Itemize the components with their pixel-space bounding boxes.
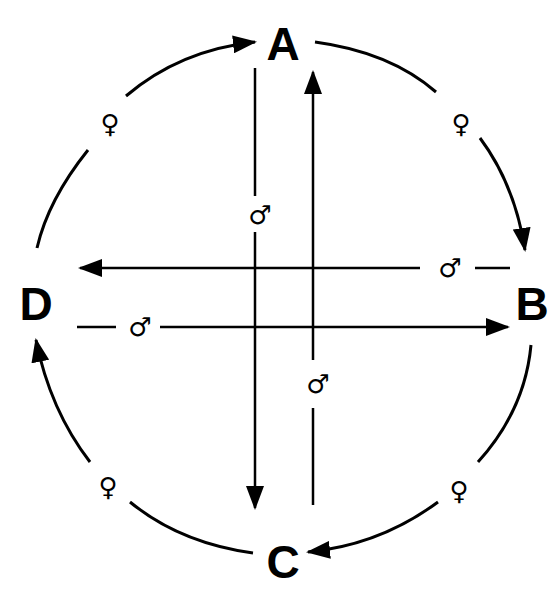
node-a-label: A bbox=[266, 18, 299, 70]
edge-d-to-b: ♂ bbox=[77, 312, 508, 342]
node-b-label: B bbox=[515, 278, 548, 330]
edge-b-to-c: ♀ bbox=[308, 345, 531, 552]
male-symbol-icon: ♂ bbox=[128, 312, 151, 342]
male-symbol-icon: ♂ bbox=[248, 200, 271, 230]
edge-c-to-a: ♂ bbox=[306, 72, 329, 505]
female-symbol-icon: ♀ bbox=[98, 472, 117, 502]
edge-b-to-d: ♂ bbox=[80, 253, 510, 283]
edge-c-to-d: ♀ bbox=[36, 340, 253, 553]
female-symbol-icon: ♀ bbox=[451, 109, 470, 139]
male-symbol-icon: ♂ bbox=[306, 369, 329, 399]
edge-a-to-c: ♂ bbox=[248, 68, 271, 508]
female-symbol-icon: ♀ bbox=[100, 109, 119, 139]
mating-cycle-diagram: A B C D ♀ ♀ ♀ ♀ ♂ ♂ ♂ bbox=[0, 0, 557, 593]
edge-d-to-a: ♀ bbox=[37, 42, 255, 248]
node-d-label: D bbox=[19, 278, 52, 330]
male-symbol-icon: ♂ bbox=[438, 253, 461, 283]
edge-a-to-b: ♀ bbox=[315, 42, 525, 250]
female-symbol-icon: ♀ bbox=[449, 476, 468, 506]
node-c-label: C bbox=[266, 536, 299, 588]
